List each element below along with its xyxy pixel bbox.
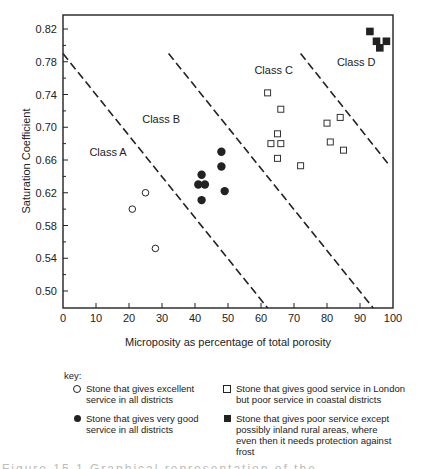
class-boundary-lines bbox=[63, 54, 390, 308]
x-tick-label: 80 bbox=[321, 312, 333, 324]
open-square-marker bbox=[337, 114, 343, 120]
class-boundary-line bbox=[63, 54, 268, 308]
open-square-marker bbox=[268, 141, 274, 147]
legend-text: Stone that gives good service in London … bbox=[236, 383, 405, 405]
figure-caption: Figure 15.1 Graphical representation of … bbox=[2, 462, 422, 469]
y-tick-label: 0.74 bbox=[36, 89, 57, 101]
y-tick-label: 0.82 bbox=[36, 23, 57, 35]
x-tick-label: 50 bbox=[222, 312, 234, 324]
x-tick-label: 0 bbox=[60, 312, 66, 324]
x-tick-label: 30 bbox=[156, 312, 168, 324]
class-label: Class A bbox=[89, 146, 127, 158]
legend-item-good-london: Stone that gives good service in London … bbox=[218, 383, 408, 405]
x-axis-title: Microposity as percentage of total poros… bbox=[125, 336, 332, 348]
filled-square-marker bbox=[383, 37, 391, 45]
open-square-marker bbox=[324, 120, 330, 126]
open-circle-marker bbox=[142, 189, 149, 196]
class-label: Class D bbox=[337, 56, 376, 68]
y-tick-label: 0.70 bbox=[36, 121, 57, 133]
open-square-marker bbox=[275, 131, 281, 137]
filled-circle-marker bbox=[217, 162, 225, 170]
y-tick-label: 0.58 bbox=[36, 220, 57, 232]
class-label: Class C bbox=[254, 64, 293, 76]
filled-circle-marker bbox=[197, 196, 205, 204]
open-circle-marker bbox=[129, 206, 136, 213]
y-tick-label: 0.54 bbox=[36, 252, 57, 264]
open-square-marker bbox=[327, 139, 333, 145]
y-axis-title: Saturation Coefficient bbox=[20, 109, 32, 214]
x-tick-label: 70 bbox=[288, 312, 300, 324]
open-circle-icon bbox=[68, 383, 86, 393]
open-square-marker bbox=[265, 90, 271, 96]
open-square-marker bbox=[278, 106, 284, 112]
filled-circle-marker bbox=[217, 148, 225, 156]
open-square-marker bbox=[275, 155, 281, 161]
scatter-chart: 01020304050607080901000.500.540.580.620.… bbox=[0, 0, 423, 370]
legend-item-poor: Stone that gives poor service except pos… bbox=[218, 413, 408, 457]
legend-item-very-good: Stone that gives very good service in al… bbox=[68, 413, 218, 435]
filled-circle-marker bbox=[221, 187, 229, 195]
legend-key-label: key: bbox=[64, 370, 81, 381]
open-circle-marker bbox=[152, 245, 159, 252]
filled-square-marker bbox=[373, 37, 381, 45]
filled-square-icon bbox=[218, 413, 236, 422]
legend-text: Stone that gives very good service in al… bbox=[86, 413, 199, 435]
filled-square-marker bbox=[366, 28, 374, 36]
legend-text: Stone that gives poor service except pos… bbox=[236, 413, 391, 457]
x-tick-label: 100 bbox=[384, 312, 402, 324]
open-square-marker bbox=[341, 147, 347, 153]
x-tick-label: 40 bbox=[189, 312, 201, 324]
class-label: Class B bbox=[142, 113, 180, 125]
x-tick-label: 90 bbox=[354, 312, 366, 324]
x-tick-label: 60 bbox=[255, 312, 267, 324]
y-tick-label: 0.78 bbox=[36, 56, 57, 68]
x-tick-label: 10 bbox=[90, 312, 102, 324]
filled-circle-icon bbox=[68, 413, 86, 422]
open-square-marker bbox=[278, 141, 284, 147]
legend-text: Stone that gives excellent service in al… bbox=[86, 383, 194, 405]
open-square-marker bbox=[298, 163, 304, 169]
y-tick-label: 0.62 bbox=[36, 187, 57, 199]
y-tick-label: 0.50 bbox=[36, 285, 57, 297]
open-square-icon bbox=[218, 383, 236, 393]
filled-square-marker bbox=[376, 44, 384, 52]
filled-circle-marker bbox=[201, 180, 209, 188]
filled-circle-marker bbox=[197, 171, 205, 179]
x-tick-label: 20 bbox=[123, 312, 135, 324]
y-tick-label: 0.66 bbox=[36, 154, 57, 166]
axis-ticks: 01020304050607080901000.500.540.580.620.… bbox=[36, 23, 403, 324]
legend-item-excellent: Stone that gives excellent service in al… bbox=[68, 383, 218, 405]
